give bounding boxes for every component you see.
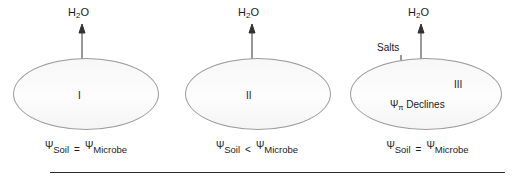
caption-panel-i: ΨSoil=ΨMicrobe	[0, 140, 172, 156]
microbe-cell-i	[13, 58, 159, 130]
osmotic-potential-note: Ψπ Declines	[390, 99, 445, 113]
microbe-cell-iii	[350, 58, 502, 130]
panel-ii: H2O II ΨSoil<ΨMicrobe	[172, 0, 342, 180]
caption-panel-iii: ΨSoil=ΨMicrobe	[342, 140, 513, 156]
figure-bottom-rule	[50, 172, 505, 173]
diagram-figure: H2O I ΨSoil=ΨMicrobe H2O II ΨSoil<ΨMicro…	[0, 0, 513, 180]
caption-panel-ii: ΨSoil<ΨMicrobe	[172, 140, 342, 156]
panel-label-i: I	[78, 90, 81, 101]
panel-iii: H2O Salts III Ψπ Declines ΨSoil=ΨMicrobe	[342, 0, 513, 180]
panel-label-iii: III	[454, 79, 462, 90]
panel-i: H2O I ΨSoil=ΨMicrobe	[0, 0, 172, 180]
microbe-cell-ii	[185, 58, 331, 130]
panel-label-ii: II	[246, 90, 252, 101]
